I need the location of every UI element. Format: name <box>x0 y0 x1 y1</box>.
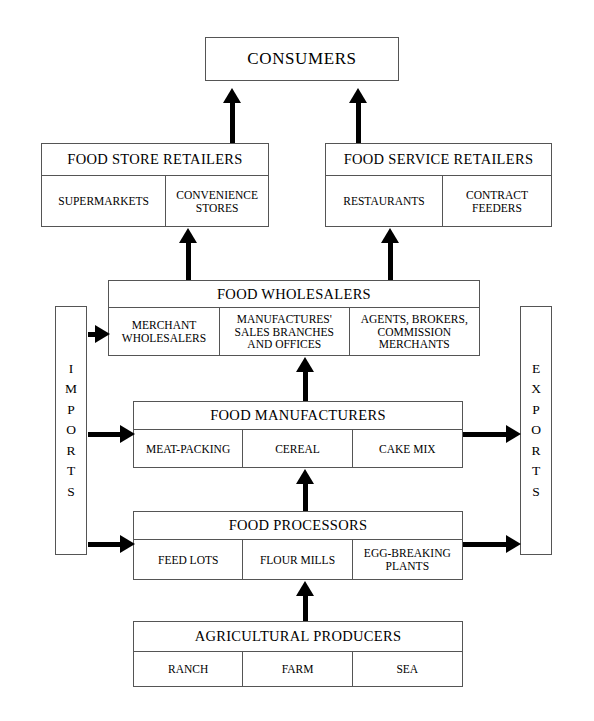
cell-manufactures-sales-branches-and-offices: MANUFACTURES' SALES BRANCHES AND OFFICES <box>220 308 350 356</box>
exports-letter-6: S <box>532 482 540 503</box>
node-food-processors: FOOD PROCESSORS FEED LOTS FLOUR MILLS EG… <box>133 511 463 580</box>
exports-letter-3: O <box>531 420 541 441</box>
cell-flour-mills: FLOUR MILLS <box>243 540 352 580</box>
cell-agents-brokers-commission-merchants: AGENTS, BROKERS, COMMISSION MERCHANTS <box>350 308 480 356</box>
node-consumers: CONSUMERS <box>205 37 399 81</box>
exports-letter-0: E <box>532 359 540 380</box>
node-food-wholesalers-header: FOOD WHOLESALERS <box>109 281 479 308</box>
cell-convenience-stores: CONVENIENCE STORES <box>166 176 268 227</box>
node-food-processors-header: FOOD PROCESSORS <box>134 512 462 540</box>
cell-cereal: CEREAL <box>243 430 352 468</box>
cell-merchant-wholesalers: MERCHANT WHOLESALERS <box>109 308 220 356</box>
cell-ranch: RANCH <box>134 652 243 687</box>
node-food-store-retailers-header: FOOD STORE RETAILERS <box>42 144 268 176</box>
arrow-wholesalers-to-food-store-retailers <box>179 228 197 280</box>
arrow-imports-to-wholesalers <box>88 325 110 343</box>
node-food-service-retailers: FOOD SERVICE RETAILERS RESTAURANTS CONTR… <box>325 143 552 227</box>
arrow-processors-to-manufacturers <box>296 469 314 512</box>
arrow-agricultural-producers-to-processors <box>296 581 314 622</box>
imports-letter-6: S <box>67 482 75 503</box>
arrow-processors-to-exports <box>463 535 521 553</box>
node-food-manufacturers-header: FOOD MANUFACTURERS <box>134 402 462 430</box>
cell-sea: SEA <box>353 652 462 687</box>
node-imports: I M P O R T S <box>55 306 87 555</box>
node-food-manufacturers: FOOD MANUFACTURERS MEAT-PACKING CEREAL C… <box>133 401 463 468</box>
cell-egg-breaking-plants: EGG-BREAKING PLANTS <box>353 540 462 580</box>
node-exports: E X P O R T S <box>520 306 552 555</box>
cell-meat-packing: MEAT-PACKING <box>134 430 243 468</box>
cell-contract-feeders: CONTRACT FEEDERS <box>443 176 551 227</box>
imports-letter-4: R <box>66 441 75 462</box>
exports-letter-2: P <box>532 400 540 421</box>
imports-letter-2: P <box>67 400 75 421</box>
node-agricultural-producers: AGRICULTURAL PRODUCERS RANCH FARM SEA <box>133 621 463 687</box>
arrow-food-store-retailers-to-consumers <box>223 88 241 144</box>
exports-letter-5: T <box>532 461 540 482</box>
node-agricultural-producers-header: AGRICULTURAL PRODUCERS <box>134 622 462 652</box>
cell-feed-lots: FEED LOTS <box>134 540 243 580</box>
node-food-store-retailers: FOOD STORE RETAILERS SUPERMARKETS CONVEN… <box>41 143 269 227</box>
exports-letter-4: R <box>531 441 540 462</box>
imports-letter-3: O <box>66 420 76 441</box>
cell-cake-mix: CAKE MIX <box>353 430 462 468</box>
imports-letter-1: M <box>65 379 77 400</box>
node-food-wholesalers: FOOD WHOLESALERS MERCHANT WHOLESALERS MA… <box>108 280 480 356</box>
imports-letter-5: T <box>67 461 75 482</box>
arrow-imports-to-processors <box>88 535 135 553</box>
arrow-imports-to-manufacturers <box>88 425 135 443</box>
cell-farm: FARM <box>243 652 352 687</box>
cell-supermarkets: SUPERMARKETS <box>42 176 166 227</box>
flow-diagram-canvas: CONSUMERS FOOD STORE RETAILERS SUPERMARK… <box>0 0 594 721</box>
exports-letter-1: X <box>531 379 541 400</box>
arrow-wholesalers-to-food-service-retailers <box>381 228 399 280</box>
node-consumers-label: CONSUMERS <box>206 38 398 80</box>
arrow-food-service-retailers-to-consumers <box>349 88 367 144</box>
arrow-manufacturers-to-wholesalers <box>296 357 314 402</box>
arrow-manufacturers-to-exports <box>463 425 521 443</box>
node-food-service-retailers-header: FOOD SERVICE RETAILERS <box>326 144 551 176</box>
cell-restaurants: RESTAURANTS <box>326 176 443 227</box>
imports-letter-0: I <box>69 359 74 380</box>
